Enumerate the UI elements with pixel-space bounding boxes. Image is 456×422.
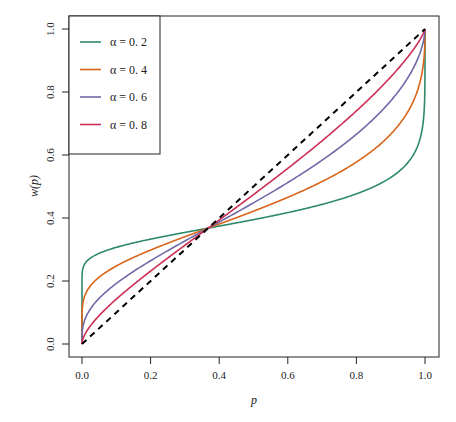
y-tick-label: 0.8: [44, 85, 56, 99]
legend-label: α = 0. 6: [110, 90, 147, 104]
legend-label: α = 0. 8: [110, 118, 147, 132]
x-axis-title: p: [250, 393, 257, 407]
y-tick-label: 0.0: [44, 337, 56, 351]
x-tick-label: 0.0: [75, 369, 89, 381]
y-tick-label: 1.0: [44, 22, 56, 36]
x-tick-label: 0.4: [212, 369, 226, 381]
legend-label: α = 0. 2: [110, 35, 147, 49]
x-tick-label: 0.8: [350, 369, 364, 381]
x-tick-label: 0.2: [144, 369, 158, 381]
x-axis: 0.00.20.40.60.81.0: [75, 357, 432, 381]
y-axis: 0.00.20.40.60.81.0: [44, 22, 69, 351]
y-axis-title: w(p): [27, 175, 41, 197]
x-tick-label: 0.6: [281, 369, 295, 381]
y-tick-label: 0.4: [44, 211, 56, 225]
y-tick-label: 0.2: [44, 274, 56, 288]
chart: 0.00.20.40.60.81.0 0.00.20.40.60.81.0 p …: [0, 0, 456, 422]
y-tick-label: 0.6: [44, 148, 56, 162]
legend-label: α = 0. 4: [110, 63, 147, 77]
x-tick-label: 1.0: [418, 369, 432, 381]
legend: α = 0. 2α = 0. 4α = 0. 6α = 0. 8: [69, 16, 160, 154]
